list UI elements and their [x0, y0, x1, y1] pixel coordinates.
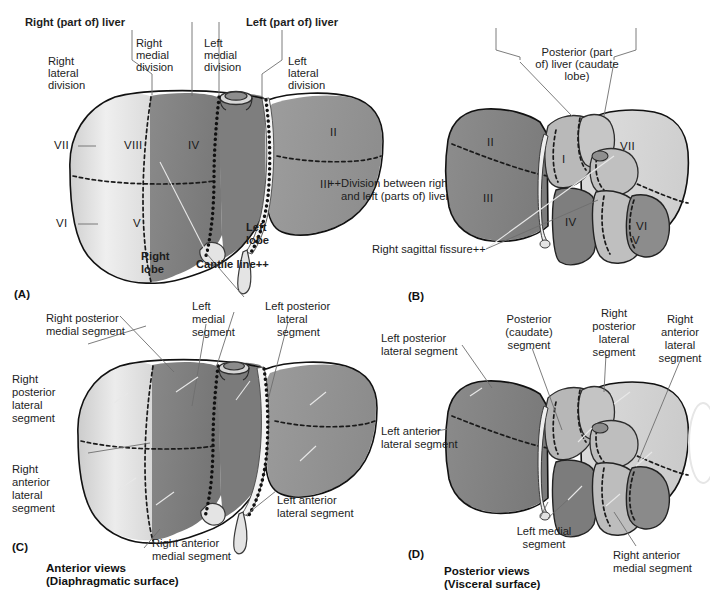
liver-segmentation-figure: Right (part of) liver Left (part of) liv… — [0, 0, 710, 596]
page-edge-artifact — [0, 0, 710, 596]
